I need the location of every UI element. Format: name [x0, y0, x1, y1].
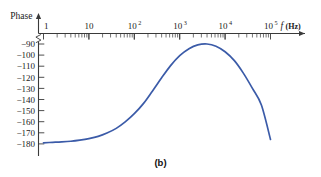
x-axis-arrowhead — [299, 31, 305, 36]
axes-layer — [36, 13, 305, 156]
x-axis-tick-label: 105 — [264, 19, 278, 32]
y-axis-tick-label: −180 — [16, 139, 35, 149]
svg-text:10: 10 — [173, 21, 183, 31]
svg-text:4: 4 — [229, 19, 232, 26]
svg-text:10: 10 — [219, 21, 229, 31]
x-axis-tick-label: 102 — [128, 19, 142, 32]
x-axis-tick-label: 10 — [84, 21, 94, 31]
y-axis-title: Phase — [10, 11, 32, 21]
svg-text:f: f — [281, 21, 285, 31]
y-axis-tick-label: −90 — [21, 39, 36, 49]
phase-curve-layer — [44, 44, 271, 143]
bode-phase-plot: 110102103104105−90−100−110−120−130−140−1… — [0, 0, 321, 177]
phase-response-curve — [44, 44, 271, 143]
y-axis-break-mark — [36, 35, 41, 43]
x-axis-title: f(Hz) — [281, 21, 301, 31]
y-axis-arrowhead — [36, 13, 41, 19]
y-axis-tick-label: −120 — [16, 73, 35, 83]
y-axis-tick-label: −160 — [16, 117, 35, 127]
figure-panel: 110102103104105−90−100−110−120−130−140−1… — [0, 0, 321, 177]
y-axis-tick-label: −140 — [16, 95, 35, 105]
svg-text:5: 5 — [275, 19, 278, 26]
y-axis-tick-label: −100 — [16, 50, 35, 60]
x-axis-tick-label: 104 — [219, 19, 233, 32]
svg-text:3: 3 — [184, 19, 187, 26]
y-axis-tick-label: −170 — [16, 128, 35, 138]
x-axis-tick-label: 103 — [173, 19, 187, 32]
y-axis-tick-label: −110 — [17, 61, 36, 71]
x-axis-tick-label: 1 — [44, 21, 49, 31]
svg-text:(Hz): (Hz) — [286, 22, 301, 31]
svg-text:10: 10 — [128, 21, 138, 31]
svg-text:2: 2 — [138, 19, 141, 26]
y-axis-tick-label: −130 — [16, 84, 35, 94]
y-axis-tick-label: −150 — [16, 106, 35, 116]
axis-labels-layer: 110102103104105−90−100−110−120−130−140−1… — [10, 11, 301, 150]
svg-text:10: 10 — [264, 21, 274, 31]
figure-caption: (b) — [0, 157, 321, 168]
